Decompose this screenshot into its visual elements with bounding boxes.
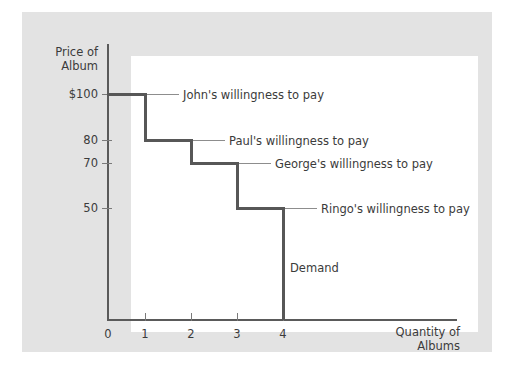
x-tick-mark-1 <box>145 313 146 321</box>
demand-step-1-horizontal <box>107 93 147 96</box>
george-leader-line <box>239 163 271 164</box>
y-tick-mark-70 <box>102 163 112 164</box>
x-axis-title-line-2: Albums <box>380 339 460 353</box>
x-tick-label-0: 0 <box>96 327 120 341</box>
george-annotation: George's willingness to pay <box>275 157 433 171</box>
x-tick-label-4: 4 <box>271 327 295 341</box>
x-axis-title-line-1: Quantity of <box>380 325 460 339</box>
paul-leader-line <box>193 140 225 141</box>
x-axis-title: Quantity of Albums <box>380 325 460 353</box>
y-tick-label-80: 80 <box>38 134 98 146</box>
demand-step-4-horizontal <box>236 207 285 210</box>
demand-step-3-drop <box>236 162 239 210</box>
paul-annotation: Paul's willingness to pay <box>229 134 369 148</box>
x-tick-label-3: 3 <box>225 327 249 341</box>
x-tick-mark-3 <box>237 313 238 321</box>
chart-screenshot: Price of Album Quantity of Albums $100 8… <box>0 0 516 376</box>
y-tick-mark-80 <box>102 140 112 141</box>
y-axis-line <box>107 44 109 321</box>
demand-curve-label: Demand <box>290 261 339 275</box>
demand-step-4-drop <box>282 207 285 320</box>
x-tick-label-1: 1 <box>133 327 157 341</box>
y-axis-title-line-2: Album <box>28 59 98 73</box>
y-tick-label-100: $100 <box>38 88 98 100</box>
john-annotation: John's willingness to pay <box>183 88 324 102</box>
y-axis-title: Price of Album <box>28 45 98 73</box>
x-tick-mark-2 <box>191 313 192 321</box>
y-tick-label-50: 50 <box>38 202 98 214</box>
ringo-leader-line <box>285 208 317 209</box>
x-tick-label-2: 2 <box>179 327 203 341</box>
demand-step-1-drop <box>144 93 147 142</box>
y-tick-mark-50 <box>102 208 112 209</box>
john-leader-line <box>147 94 179 95</box>
y-tick-label-70: 70 <box>38 157 98 169</box>
y-axis-title-line-1: Price of <box>28 45 98 59</box>
ringo-annotation: Ringo's willingness to pay <box>321 202 470 216</box>
demand-step-3-horizontal <box>190 162 239 165</box>
demand-step-2-horizontal <box>144 139 193 142</box>
